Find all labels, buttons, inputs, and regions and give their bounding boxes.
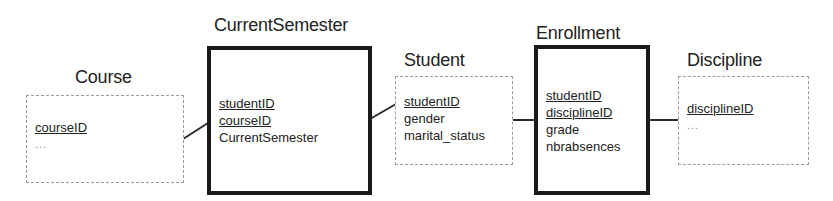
attribute-gender: gender — [404, 110, 485, 127]
entity-enrollment: studentID disciplineID grade nbrabsences — [534, 45, 650, 195]
entity-title-currentsemester: CurrentSemester — [214, 15, 348, 36]
attribute-list: studentID disciplineID grade nbrabsences — [546, 87, 620, 155]
attribute-more: ... — [687, 117, 753, 134]
attribute-studentid: studentID — [404, 93, 485, 110]
attribute-grade: grade — [546, 121, 620, 138]
attribute-nbrabsences: nbrabsences — [546, 138, 620, 155]
attribute-courseid: courseID — [35, 119, 87, 136]
attribute-more: ... — [35, 136, 87, 153]
attribute-studentid: studentID — [546, 87, 620, 104]
entity-course: courseID ... — [26, 95, 184, 183]
entity-currentsemester: studentID courseID CurrentSemester — [207, 46, 372, 195]
connector-currentsemester-student — [370, 104, 396, 119]
entity-title-course: Course — [75, 67, 132, 88]
entity-student: studentID gender marital_status — [395, 76, 513, 165]
attribute-list: courseID ... — [35, 119, 87, 153]
attribute-marital-status: marital_status — [404, 127, 485, 144]
er-diagram: Course courseID ... CurrentSemester stud… — [0, 0, 833, 201]
attribute-list: studentID courseID CurrentSemester — [219, 95, 318, 146]
attribute-list: disciplineID ... — [687, 100, 753, 134]
attribute-courseid: courseID — [219, 112, 318, 129]
entity-title-discipline: Discipline — [687, 50, 762, 71]
connector-course-currentsemester — [183, 123, 208, 139]
entity-title-student: Student — [404, 50, 465, 71]
attribute-currentsemester: CurrentSemester — [219, 129, 318, 146]
entity-title-enrollment: Enrollment — [536, 23, 620, 44]
entity-discipline: disciplineID ... — [678, 76, 809, 165]
attribute-disciplineid: disciplineID — [546, 104, 620, 121]
attribute-list: studentID gender marital_status — [404, 93, 485, 144]
attribute-disciplineid: disciplineID — [687, 100, 753, 117]
attribute-studentid: studentID — [219, 95, 318, 112]
